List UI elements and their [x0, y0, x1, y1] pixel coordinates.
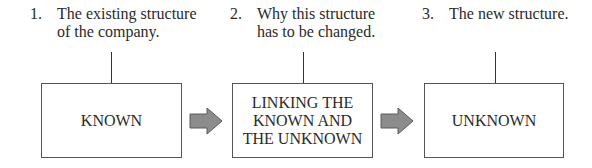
unknown-box: UNKNOWN: [424, 83, 564, 158]
step-3-description: The new structure.: [449, 5, 569, 23]
known-box-label: KNOWN: [81, 112, 142, 130]
right-arrow-icon: [380, 107, 414, 135]
connector-line-1: [111, 52, 112, 83]
step-3-label: 3. The new structure.: [422, 5, 592, 45]
step-1-number: 1.: [30, 5, 42, 23]
step-2-description: Why this structure has to be changed.: [257, 5, 375, 41]
connector-line-3: [495, 52, 496, 83]
step-1-description: The existing structure of the company.: [57, 5, 197, 41]
known-box: KNOWN: [41, 83, 182, 158]
linking-box: LINKING THE KNOWN AND THE UNKNOWN: [232, 83, 373, 158]
step-2-label: 2. Why this structure has to be changed.: [230, 5, 400, 45]
step-1-label: 1. The existing structure of the company…: [30, 5, 200, 45]
unknown-box-label: UNKNOWN: [452, 112, 536, 130]
step-2-number: 2.: [230, 5, 242, 23]
right-arrow-icon: [189, 107, 223, 135]
linking-box-label: LINKING THE KNOWN AND THE UNKNOWN: [243, 94, 363, 148]
connector-line-2: [303, 52, 304, 83]
step-3-number: 3.: [422, 5, 434, 23]
